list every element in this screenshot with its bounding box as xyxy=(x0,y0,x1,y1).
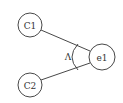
and-operator-label: Λ xyxy=(64,52,72,62)
node-c2: C2 xyxy=(18,73,42,97)
edge-c2-e1 xyxy=(41,63,90,80)
node-c1: C1 xyxy=(18,13,42,37)
node-e1-label: e1 xyxy=(96,53,107,63)
node-e1: e1 xyxy=(89,44,115,70)
node-c2-label: C2 xyxy=(24,81,37,91)
edge-c1-e1 xyxy=(41,30,90,51)
diagram-canvas: Λ C1 C2 e1 xyxy=(0,0,123,103)
node-c1-label: C1 xyxy=(24,21,37,31)
and-arc xyxy=(72,44,78,70)
